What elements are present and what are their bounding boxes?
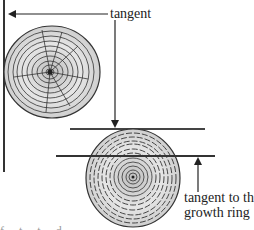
tangent-label: tangent	[110, 6, 151, 21]
label-line-2: growth ring	[184, 205, 254, 220]
log-cross-section-1	[4, 26, 100, 118]
tangent-to-growth-ring-label: tangent to the growth ring	[184, 190, 254, 220]
log-cross-section-2	[86, 129, 180, 227]
cropped-caption: f t t d	[0, 224, 68, 230]
label-line-1: tangent to the	[184, 190, 254, 205]
